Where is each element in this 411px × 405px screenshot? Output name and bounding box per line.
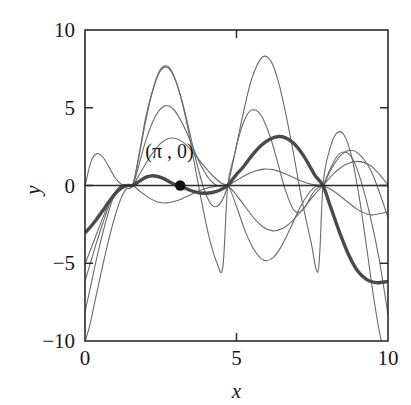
x-tick-label-0: 0: [80, 346, 91, 370]
x-tick-label-5: 5: [231, 346, 242, 370]
x-tick-label-10: 10: [378, 346, 399, 370]
y-tick-label--5: −5: [53, 251, 75, 275]
y-tick-label-10: 10: [54, 18, 75, 42]
x-axis-title: x: [231, 379, 242, 403]
plot-canvas: −10−50510 0510 (π , 0) x y: [0, 0, 411, 405]
chart-figure: −10−50510 0510 (π , 0) x y: [0, 0, 411, 405]
annotation-label: (π , 0): [145, 140, 193, 163]
y-tick-label--10: −10: [42, 329, 75, 353]
y-tick-label-0: 0: [65, 174, 76, 198]
y-axis-title: y: [21, 185, 45, 197]
annotation-point-marker: [175, 180, 185, 190]
y-tick-label-5: 5: [65, 96, 76, 120]
